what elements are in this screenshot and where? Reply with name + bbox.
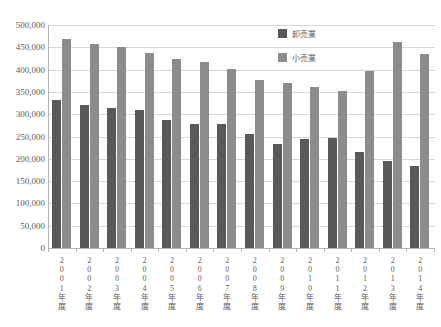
bar-wholesale (355, 152, 364, 248)
bar-retail (420, 54, 429, 248)
bar-retail (338, 91, 347, 248)
bar-retail (255, 80, 264, 248)
x-axis-label: 2009年度 (269, 256, 295, 311)
bar-wholesale (245, 134, 254, 248)
x-axis-tick (406, 248, 407, 252)
bar-wholesale (300, 139, 309, 248)
x-axis-label: 2014年度 (407, 256, 433, 311)
bar-retail (227, 69, 236, 248)
bar-retail (200, 62, 209, 248)
x-axis-tick (379, 248, 380, 252)
bar-wholesale (217, 124, 226, 248)
bar-retail (283, 83, 292, 248)
x-axis-label: 2013年度 (380, 256, 406, 311)
bar-wholesale (273, 144, 282, 248)
y-axis-tick-label: 300,000 (1, 110, 45, 119)
x-axis-label: 2005年度 (159, 256, 185, 311)
bar-retail (310, 87, 319, 248)
legend-item-wholesale: 卸売業 (278, 28, 358, 39)
bar-retail (62, 39, 71, 248)
x-axis-label: 2003年度 (104, 256, 130, 311)
x-axis-tick (324, 248, 325, 252)
x-axis-label: 2008年度 (242, 256, 268, 311)
bar-retail (393, 42, 402, 248)
bar-group (407, 25, 435, 248)
bar-group (242, 25, 270, 248)
x-axis-tick (131, 248, 132, 252)
x-axis-tick (434, 248, 435, 252)
x-axis-tick (351, 248, 352, 252)
bar-retail (145, 53, 154, 248)
x-axis-label: 2012年度 (352, 256, 378, 311)
bar-wholesale (410, 166, 419, 249)
x-axis-tick (296, 248, 297, 252)
bar-wholesale (383, 161, 392, 248)
bar-group (49, 25, 77, 248)
x-axis-label: 2011年度 (325, 256, 351, 311)
x-axis-label: 2007年度 (214, 256, 240, 311)
bar-retail (90, 44, 99, 248)
y-axis-tick-label: 500,000 (1, 21, 45, 30)
bar-retail (172, 59, 181, 248)
x-axis-tick (76, 248, 77, 252)
bar-wholesale (190, 124, 199, 248)
y-axis-tick-label: 350,000 (1, 88, 45, 97)
y-axis-tick-label: 400,000 (1, 66, 45, 75)
x-axis-tick (241, 248, 242, 252)
bar-wholesale (80, 105, 89, 248)
bar-group (132, 25, 160, 248)
bar-chart: 500,000450,000400,000350,000300,000250,0… (0, 0, 441, 327)
x-axis-tick (186, 248, 187, 252)
bar-group (104, 25, 132, 248)
x-axis-label: 2002年度 (76, 256, 102, 311)
y-axis-tick-label: 50,000 (1, 222, 45, 231)
legend-label-retail: 小売業 (292, 52, 316, 63)
bars-layer (49, 25, 434, 248)
y-axis-tick-label: 0 (1, 244, 45, 253)
y-axis-tick-label: 450,000 (1, 43, 45, 52)
x-axis-label: 2001年度 (49, 256, 75, 311)
bar-retail (365, 71, 374, 249)
x-axis-tick (269, 248, 270, 252)
x-axis-tick (48, 248, 49, 252)
y-axis-tick-label: 100,000 (1, 199, 45, 208)
bar-wholesale (135, 110, 144, 248)
bar-wholesale (52, 100, 61, 248)
retail-swatch-icon (278, 53, 287, 62)
bar-group (77, 25, 105, 248)
x-axis-label: 2006年度 (187, 256, 213, 311)
x-axis-tick (103, 248, 104, 252)
clipped-title-text (160, 0, 440, 9)
legend-item-retail: 小売業 (278, 52, 358, 63)
y-axis: 500,000450,000400,000350,000300,000250,0… (0, 0, 45, 327)
y-axis-tick-label: 150,000 (1, 177, 45, 186)
bar-retail (117, 47, 126, 248)
bar-group (380, 25, 408, 248)
x-axis-tick (213, 248, 214, 252)
x-axis-tick (158, 248, 159, 252)
y-axis-tick-label: 250,000 (1, 133, 45, 142)
legend-label-wholesale: 卸売業 (292, 28, 316, 39)
bar-group (214, 25, 242, 248)
bar-wholesale (107, 108, 116, 248)
x-axis-label: 2010年度 (297, 256, 323, 311)
y-axis-tick-label: 200,000 (1, 155, 45, 164)
bar-wholesale (328, 138, 337, 248)
x-axis-label: 2004年度 (132, 256, 158, 311)
legend: 卸売業 小売業 (278, 28, 358, 76)
bar-group (187, 25, 215, 248)
bar-wholesale (162, 120, 171, 248)
bar-group (159, 25, 187, 248)
wholesale-swatch-icon (278, 29, 287, 38)
